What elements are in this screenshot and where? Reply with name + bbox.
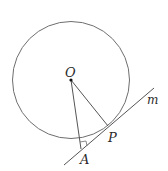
label-O: O xyxy=(65,65,76,80)
right-angle-mark xyxy=(80,141,87,146)
geometry-diagram: O P A m xyxy=(0,0,168,171)
label-m: m xyxy=(147,93,158,107)
label-A: A xyxy=(79,152,89,167)
label-P: P xyxy=(107,130,117,145)
